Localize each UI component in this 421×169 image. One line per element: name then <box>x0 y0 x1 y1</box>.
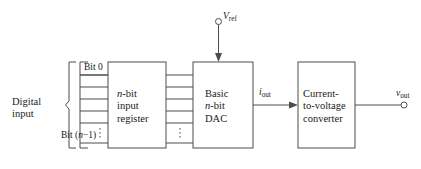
figure-block-diagram: Digital input Bit 0 Bit (n−1) n-bit inpu… <box>0 0 421 169</box>
converter-line-3: converter <box>303 113 346 125</box>
block-basic-dac-label: Basic n-bit DAC <box>205 88 228 125</box>
iout-subscript: out <box>262 91 271 99</box>
vref-label: Vref <box>223 11 237 22</box>
digital-input-label: Digital input <box>12 96 41 121</box>
vout-label: vout <box>396 88 409 99</box>
input-register-italic-n: n <box>117 88 122 99</box>
vref-subscript: ref <box>229 15 237 23</box>
block-input-register-label: n-bit input register <box>117 88 149 125</box>
bit-0-label: Bit 0 <box>84 62 103 73</box>
bit-index-italic-n: n <box>78 130 83 140</box>
basic-dac-line-1: Basic <box>205 88 228 100</box>
iout-arrowhead <box>289 102 298 109</box>
vref-arrowhead <box>215 53 222 62</box>
input-register-line-2: input <box>117 100 149 112</box>
block-current-to-voltage-label: Current- to-voltage converter <box>303 88 346 125</box>
converter-line-1: Current- <box>303 88 346 100</box>
digital-input-label-line2: input <box>12 108 41 120</box>
vref-terminal-node <box>216 19 222 25</box>
bit-n-minus-1-prefix: Bit <box>61 130 73 140</box>
basic-dac-line-3: DAC <box>205 113 228 125</box>
vref-symbol: V <box>223 11 229 21</box>
vout-subscript: out <box>400 92 409 100</box>
vout-terminal-node <box>401 102 407 108</box>
iout-label: iout <box>259 87 271 98</box>
basic-dac-line-2: n-bit <box>205 100 228 112</box>
bit-n-minus-1-label: Bit (n−1) <box>61 130 96 141</box>
diagram-canvas <box>0 0 421 169</box>
converter-line-2: to-voltage <box>303 100 346 112</box>
bit-n-minus-1-index: (n−1) <box>75 130 96 140</box>
digital-input-label-line1: Digital <box>12 96 41 108</box>
input-register-line-3: register <box>117 113 149 125</box>
input-register-line-1: n-bit <box>117 88 149 100</box>
basic-dac-italic-n: n <box>205 100 210 111</box>
